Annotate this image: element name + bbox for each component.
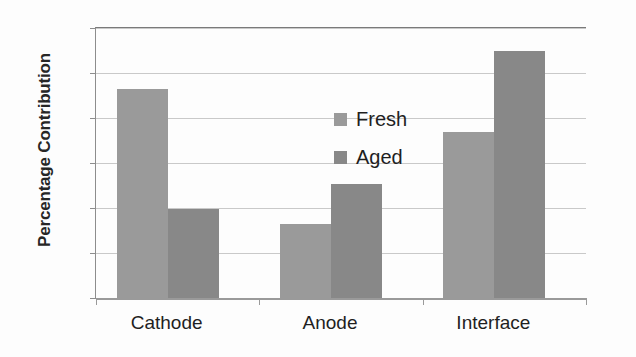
x-axis-tick-mark: [259, 298, 260, 305]
legend-entry-aged: Aged: [334, 138, 407, 176]
bar-fresh-interface: [443, 132, 494, 299]
legend-label-aged: Aged: [356, 146, 403, 169]
x-axis-category-label-interface: Interface: [418, 312, 568, 334]
y-axis-tick-mark: [90, 118, 96, 119]
bar-chart-figure: Percentage Contribution 0102030405060 Ca…: [0, 0, 636, 357]
x-axis-tick-mark: [96, 298, 97, 305]
bar-fresh-anode: [280, 224, 331, 298]
y-axis-tick-mark: [90, 28, 96, 29]
legend-swatch-icon-fresh: [334, 113, 347, 126]
plot-area: Fresh Aged: [95, 27, 586, 298]
x-axis-tick-mark: [423, 298, 424, 305]
legend-entry-fresh: Fresh: [334, 100, 407, 138]
y-axis-tick-mark: [90, 163, 96, 164]
legend-label-fresh: Fresh: [356, 108, 407, 131]
x-axis-category-label-anode: Anode: [255, 312, 405, 334]
bar-aged-anode: [331, 184, 382, 298]
bar-aged-interface: [494, 51, 545, 299]
y-axis-tick-mark: [90, 253, 96, 254]
y-axis-title: Percentage Contribution: [35, 20, 55, 280]
y-axis-tick-mark: [90, 73, 96, 74]
bar-aged-cathode: [168, 209, 219, 298]
y-axis-tick-mark: [90, 208, 96, 209]
x-axis-category-label-cathode: Cathode: [92, 312, 242, 334]
x-axis-tick-mark: [586, 298, 587, 305]
gridline: [96, 298, 586, 300]
gridline: [96, 28, 586, 29]
legend: Fresh Aged: [334, 100, 407, 176]
legend-swatch-icon-aged: [334, 151, 347, 164]
bar-fresh-cathode: [117, 89, 168, 298]
